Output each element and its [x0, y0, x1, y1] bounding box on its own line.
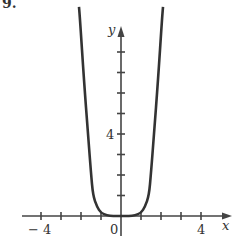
y-axis-label: y: [107, 22, 116, 37]
x-tick-label: 0: [110, 222, 118, 237]
ticks: − 4044: [28, 52, 205, 237]
chart: 9. − 4044 x y: [0, 0, 242, 246]
x-tick-label: − 4: [28, 222, 51, 237]
x-axis-label: x: [222, 218, 230, 233]
axes: [22, 26, 232, 236]
x-tick-label: 4: [197, 222, 205, 237]
y-tick-label: 4: [106, 127, 114, 142]
problem-number-fragment: 9.: [2, 0, 17, 11]
y-axis-arrow-icon: [118, 26, 125, 37]
